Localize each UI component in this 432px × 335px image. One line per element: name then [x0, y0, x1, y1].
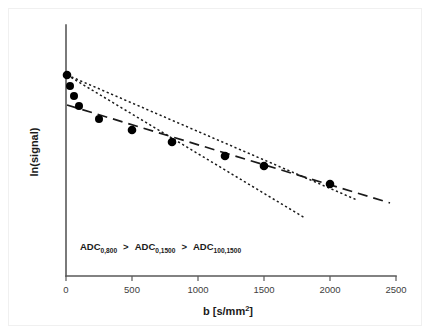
- data-point-b0: [63, 71, 72, 80]
- data-point-b500: [128, 126, 137, 135]
- data-point-b2000: [326, 180, 335, 189]
- x-axis-title-main: b [s/mm: [203, 305, 245, 317]
- x-axis-title-close: ]: [249, 305, 253, 317]
- adc-0-1500-base: ADC: [135, 241, 156, 252]
- adc-comparison-annotation: ADC0,800>ADC0,1500>ADC100,1500: [80, 241, 241, 255]
- x-tick-label-1000: 1000: [187, 284, 208, 295]
- x-axis-title: b [s/mm2]: [203, 304, 253, 317]
- x-tick-label-2000: 2000: [319, 284, 340, 295]
- data-point-b250: [95, 115, 103, 123]
- data-point-b25: [66, 82, 74, 90]
- adc-100-1500-base: ADC: [193, 241, 214, 252]
- x-tick-label-0: 0: [63, 284, 68, 295]
- x-axis-tick-labels: 0 500 1000 1500 2000 2500: [63, 284, 406, 295]
- adc-signal-decay-plot: 0 500 1000 1500 2000 2500 b [s/mm2] ln(s…: [0, 0, 432, 335]
- data-point-b800: [168, 138, 177, 147]
- y-axis-title: ln(signal): [28, 127, 40, 176]
- chart-screenshot: 0 500 1000 1500 2000 2500 b [s/mm2] ln(s…: [0, 0, 432, 335]
- adc-100-1500-subscript: 100,1500: [214, 247, 242, 255]
- greater-than-1: >: [123, 241, 129, 252]
- x-tick-label-2500: 2500: [385, 284, 406, 295]
- adc-0-800-subscript: 0,800: [101, 247, 118, 255]
- data-point-b1200: [221, 152, 230, 161]
- adc-0-800-base: ADC: [80, 241, 101, 252]
- adc-0-1500-subscript: 0,1500: [155, 247, 176, 255]
- data-point-b1500: [260, 162, 269, 171]
- fit-line-adc-0-1500: [67, 75, 357, 200]
- x-tick-label-500: 500: [124, 284, 140, 295]
- x-tick-label-1500: 1500: [253, 284, 274, 295]
- data-point-b100: [75, 102, 83, 110]
- fit-line-adc-0-800: [67, 75, 305, 218]
- data-point-b50: [70, 92, 78, 100]
- greater-than-2: >: [181, 241, 187, 252]
- data-point-markers: [63, 71, 335, 189]
